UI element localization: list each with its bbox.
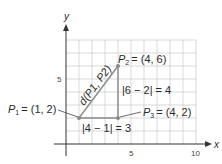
y-axis-label: y [63,11,70,22]
y-axis-arrow-icon [63,24,69,31]
label-p1: P1= (1, 2) [8,103,56,116]
point-p1 [77,116,81,120]
x-tick-5: 5 [129,149,134,158]
label-horizontal-distance: |4 − 1| = 3 [82,122,131,134]
x-axis-arrow-icon [205,141,212,147]
y-tick-5: 5 [57,75,62,84]
label-p2: P2= (4, 6) [118,53,166,66]
label-p3: P3= (4, 2) [143,106,191,119]
x-axis-label: x [213,139,220,150]
x-tick-10: 10 [191,149,200,158]
label-distance-p1-p2: d(P1, P2) [76,63,114,108]
point-labels: P1= (1, 2) P2= (4, 6) P3= (4, 2) |6 − 2|… [8,53,191,134]
leader-lines [58,110,141,117]
leader-p1 [58,110,78,117]
leader-p3 [120,112,141,117]
coordinate-plane-diagram: x y 5 10 5 P1= (1, 2) P2= [0,0,222,164]
label-vertical-distance: |6 − 2| = 4 [122,84,171,96]
point-p3 [116,116,120,120]
